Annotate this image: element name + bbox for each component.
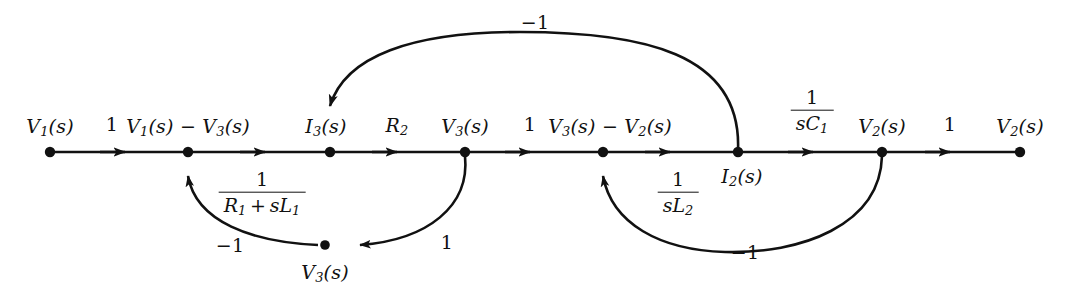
edge-gain-e9: 1: [441, 233, 453, 252]
node-label-v2: V2(s): [858, 117, 906, 136]
node-label-i2: I2(s): [721, 167, 762, 186]
node-label-v2-output: V2(s): [996, 117, 1044, 136]
node-label-i3: I3(s): [305, 117, 346, 136]
node-v3: [460, 147, 470, 157]
node-label-v3: V3(s): [441, 117, 489, 136]
node-label-v3-bottom: V3(s): [301, 263, 349, 282]
node-i3: [325, 147, 335, 157]
node-v2: [877, 147, 887, 157]
edge-gain-e8: −1: [521, 13, 549, 32]
node-v3-bottom: [320, 240, 330, 250]
signal-flow-graph-figure: V1(s) V1(s) − V3(s) I3(s) V3(s) V3(s) − …: [0, 0, 1080, 297]
edge-gain-e11: −1: [731, 243, 759, 262]
node-label-v1-input: V1(s): [26, 117, 74, 136]
node-v3-minus-v2: [598, 147, 608, 157]
graph-nodes: [45, 147, 1025, 250]
edge-gain-e4: 1: [524, 115, 536, 134]
edge-gain-e5: 1 sL2: [658, 169, 699, 216]
node-label-v3-minus-v2: V3(s) − V2(s): [548, 117, 672, 136]
node-v1-input: [45, 147, 55, 157]
edge-gain-e2: 1 R1 + sL1: [219, 169, 306, 216]
edge-gain-e10: −1: [216, 236, 244, 255]
node-i2: [733, 147, 743, 157]
edge-gain-e3: R2: [386, 116, 409, 135]
edge-gain-e1: 1: [106, 115, 118, 134]
node-label-v1-minus-v3: V1(s) − V3(s): [126, 117, 250, 136]
node-v1-minus-v3: [183, 147, 193, 157]
signal-flow-graph-canvas: [0, 0, 1080, 297]
edge-gain-e7: 1: [944, 115, 956, 134]
edge-gain-e6: 1 sC1: [791, 87, 834, 134]
node-v2-output: [1015, 147, 1025, 157]
